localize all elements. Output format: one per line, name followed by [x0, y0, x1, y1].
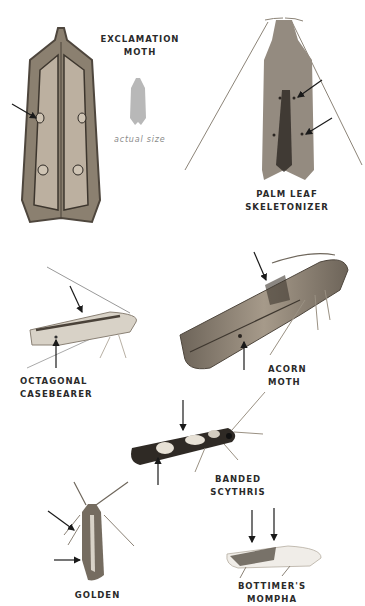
octagonal-arrow-1 — [70, 286, 82, 312]
golden-moth-image — [64, 482, 134, 580]
actual-size-caption: actual size — [114, 135, 166, 144]
label-line: SCYTHRIS — [198, 486, 278, 499]
label-exclamation-moth: EXCLAMATION MOTH — [100, 33, 180, 59]
acorn-arrow-1 — [254, 252, 266, 280]
label-banded-scythris: BANDED SCYTHRIS — [198, 473, 278, 499]
acorn-moth-image — [180, 254, 348, 369]
actual-size-silhouette — [130, 78, 146, 125]
label-line: ACORN MOTH — [268, 363, 340, 389]
label-line: BOTTIMER'S MOMPHA — [212, 580, 332, 606]
label-golden: GOLDEN — [60, 589, 135, 602]
banded-scythris-image — [131, 392, 265, 472]
label-palm-leaf-skeletonizer: PALM LEAF SKELETONIZER — [232, 188, 342, 214]
label-octagonal-casebearer: OCTAGONAL CASEBEARER — [20, 375, 155, 401]
label-line: OCTAGONAL CASEBEARER — [20, 375, 155, 401]
bottimers-mompha-image — [227, 546, 321, 578]
label-acorn-moth: ACORN MOTH — [268, 363, 340, 389]
label-line: PALM LEAF — [232, 188, 342, 201]
label-line: EXCLAMATION — [100, 33, 180, 46]
golden-arrow-1 — [48, 511, 74, 530]
exclamation-moth-image — [22, 28, 100, 222]
label-line: BANDED — [198, 473, 278, 486]
label-line: GOLDEN — [60, 589, 135, 602]
label-line: SKELETONIZER — [232, 201, 342, 214]
octagonal-casebearer-image — [27, 267, 136, 368]
label-bottimers-mompha: BOTTIMER'S MOMPHA — [212, 580, 332, 606]
label-line: MOTH — [100, 46, 180, 59]
palm-leaf-skeletonizer-image — [185, 18, 362, 180]
